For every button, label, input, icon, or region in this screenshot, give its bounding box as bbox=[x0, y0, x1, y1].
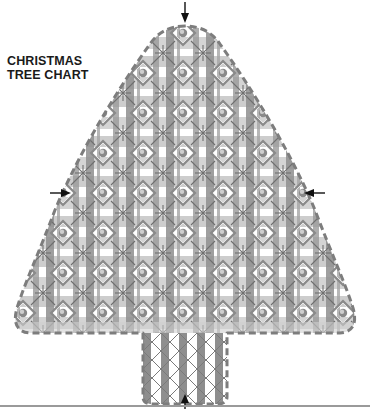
bottom-divider bbox=[0, 405, 370, 407]
top-center-arrow-icon bbox=[181, 2, 189, 23]
tree-fill bbox=[0, 0, 370, 409]
tree-chart-diagram bbox=[0, 0, 370, 409]
